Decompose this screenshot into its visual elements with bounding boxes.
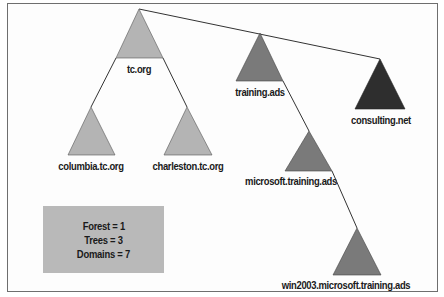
- node-label-text: charleston.tc.org: [153, 160, 224, 172]
- domains-count: Domains = 7: [77, 247, 130, 261]
- columbia-label: columbia.tc.org: [51, 160, 131, 172]
- win2003-label: win2003.microsoft.training.ads: [268, 279, 425, 291]
- tc-org-domain-icon: [116, 9, 163, 58]
- forest-count: Forest = 1: [82, 219, 124, 233]
- training-ads-domain-icon: [236, 33, 283, 81]
- forest-stats-box: Forest = 1 Trees = 3 Domains = 7: [43, 206, 164, 273]
- tc-to-columbia-line: [91, 58, 116, 107]
- trees-count: Trees = 3: [84, 233, 122, 247]
- node-label-text: columbia.tc.org: [58, 160, 123, 172]
- training-ads-label: training.ads: [230, 86, 290, 98]
- tc-org-label: tc.org: [124, 63, 154, 75]
- node-label-text: consulting.net: [351, 114, 411, 126]
- microsoft-training-label: microsoft.training.ads: [235, 175, 347, 187]
- columbia-domain-icon: [68, 107, 115, 155]
- microsoft-training-domain-icon: [285, 131, 332, 171]
- charleston-domain-icon: [164, 107, 212, 155]
- consulting-net-domain-icon: [355, 59, 405, 109]
- node-label-text: tc.org: [127, 63, 151, 75]
- node-label-text: training.ads: [235, 86, 285, 98]
- win2003-domain-icon: [333, 228, 381, 275]
- node-label-text: microsoft.training.ads: [245, 175, 337, 187]
- charleston-label: charleston.tc.org: [145, 160, 232, 172]
- node-label-text: win2003.microsoft.training.ads: [282, 279, 411, 291]
- tc-to-charleston-line: [163, 58, 187, 107]
- consulting-net-label: consulting.net: [345, 114, 418, 126]
